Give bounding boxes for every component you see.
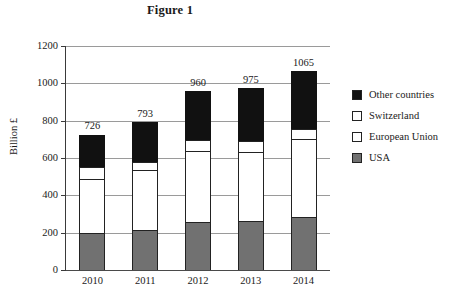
legend-label: Switzerland	[369, 110, 419, 121]
bar-segment[interactable]	[79, 167, 105, 178]
bar-group[interactable]: 726	[79, 46, 105, 270]
legend-label: USA	[369, 152, 390, 163]
gridline-0	[66, 270, 330, 271]
bar-segment[interactable]	[79, 233, 105, 270]
y-tick-label-wrap: 600	[10, 153, 58, 163]
bar-value-label: 960	[168, 77, 228, 88]
legend-swatch-icon	[352, 153, 362, 163]
y-tick-label-400: 400	[18, 190, 58, 200]
y-tick-label-wrap: 200	[10, 228, 58, 238]
y-tick-label-wrap: 1000	[10, 78, 58, 88]
legend-item[interactable]: Other countries	[352, 84, 472, 105]
bar-segment[interactable]	[291, 129, 317, 139]
bar-value-label: 1065	[274, 57, 334, 68]
bar-segment[interactable]	[238, 221, 264, 270]
y-tick-label-wrap: 400	[10, 190, 58, 200]
legend-label: European Union	[369, 131, 438, 142]
bar-segment[interactable]	[238, 141, 264, 152]
x-tick-label-2013: 2013	[221, 275, 281, 286]
bar-segment[interactable]	[132, 230, 158, 270]
chart-legend: Other countriesSwitzerlandEuropean Union…	[352, 84, 472, 168]
bar-group[interactable]: 793	[132, 46, 158, 270]
bar-group[interactable]: 975	[238, 46, 264, 270]
bar-segment[interactable]	[185, 222, 211, 270]
legend-swatch-icon	[352, 111, 362, 121]
y-tick-label-wrap: 800	[10, 116, 58, 126]
bar-value-label: 726	[62, 120, 122, 131]
x-tick-label-2011: 2011	[115, 275, 175, 286]
bar-value-label: 793	[115, 108, 175, 119]
bar-segment[interactable]	[291, 139, 317, 216]
bar-segment[interactable]	[185, 151, 211, 222]
bar-group[interactable]: 1065	[291, 46, 317, 270]
legend-item[interactable]: Switzerland	[352, 105, 472, 126]
y-tick-label-800: 800	[18, 116, 58, 126]
y-tick-label-600: 600	[18, 153, 58, 163]
x-tick-label-2014: 2014	[274, 275, 334, 286]
bar-segment[interactable]	[185, 91, 211, 140]
bar-segment[interactable]	[79, 135, 105, 168]
figure-container: Figure 1 Billion £ 020040060080010001200…	[0, 0, 475, 300]
y-tick-label-0: 0	[18, 265, 58, 275]
plot-area: 7267939609751065	[66, 46, 330, 270]
legend-label: Other countries	[369, 89, 434, 100]
bar-segment[interactable]	[291, 71, 317, 129]
legend-swatch-icon	[352, 90, 362, 100]
bar-segment[interactable]	[132, 122, 158, 162]
bar-segment[interactable]	[185, 140, 211, 151]
legend-item[interactable]: European Union	[352, 126, 472, 147]
bar-segment[interactable]	[79, 179, 105, 233]
bar-segment[interactable]	[132, 162, 158, 170]
bar-segment[interactable]	[132, 170, 158, 230]
bar-group[interactable]: 960	[185, 46, 211, 270]
y-tick-label-wrap: 0	[10, 265, 58, 275]
bar-segment[interactable]	[238, 88, 264, 141]
chart-title: Figure 1	[0, 3, 340, 18]
x-tick-label-2010: 2010	[62, 275, 122, 286]
y-tick-label-1200: 1200	[18, 41, 58, 51]
x-tick-label-2012: 2012	[168, 275, 228, 286]
bar-value-label: 975	[221, 74, 281, 85]
legend-swatch-icon	[352, 132, 362, 142]
y-tick-label-1000: 1000	[18, 78, 58, 88]
bar-segment[interactable]	[238, 152, 264, 221]
y-tick-label-wrap: 1200	[10, 41, 58, 51]
y-tick-label-200: 200	[18, 228, 58, 238]
bar-segment[interactable]	[291, 217, 317, 270]
legend-item[interactable]: USA	[352, 147, 472, 168]
